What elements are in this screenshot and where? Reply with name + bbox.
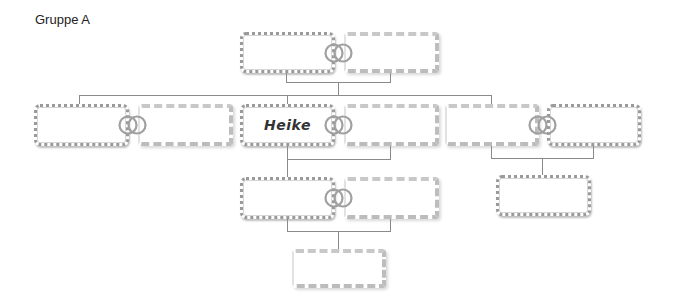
connector-line [287, 159, 391, 160]
person-box-row2-mid-b[interactable] [344, 104, 439, 146]
person-box-row2-right-b[interactable] [547, 104, 641, 146]
connector-line [287, 231, 391, 232]
person-box-row4[interactable] [292, 249, 386, 288]
connector-line [287, 146, 288, 178]
person-box-row3-a[interactable] [240, 177, 335, 219]
person-box-row1-left[interactable] [240, 32, 335, 73]
wedding-rings-icon [324, 187, 354, 209]
connector-line [338, 82, 339, 96]
wedding-rings-icon [324, 114, 354, 136]
connector-line [542, 158, 543, 176]
person-box-row2-right-a[interactable] [445, 104, 539, 146]
connector-line [390, 146, 391, 160]
person-name: Heike [243, 117, 332, 133]
person-box-row1-right[interactable] [344, 32, 439, 73]
person-box-heike[interactable]: Heike [240, 104, 335, 146]
person-box-row3-b[interactable] [344, 177, 439, 219]
connector-line [79, 95, 492, 96]
wedding-rings-icon [324, 42, 354, 64]
wedding-rings-icon [118, 114, 148, 136]
person-box-row2-left-a[interactable] [34, 104, 129, 146]
group-title: Gruppe A [35, 12, 90, 27]
wedding-rings-icon [528, 114, 558, 136]
connector-line [338, 231, 339, 249]
person-box-row2-left-b[interactable] [138, 104, 233, 146]
person-box-row3-right[interactable] [496, 175, 591, 216]
